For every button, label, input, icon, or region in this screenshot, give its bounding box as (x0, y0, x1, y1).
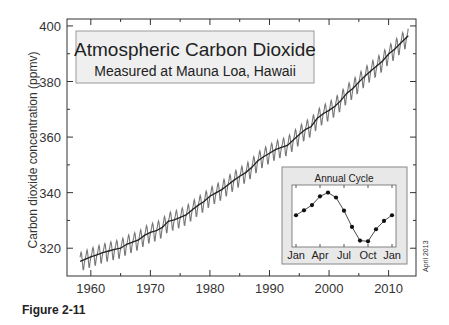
inset-tick-label: Jan (383, 249, 401, 261)
title-box: Atmospheric Carbon Dioxide Measured at M… (74, 31, 316, 83)
x-tick-label: 1970 (136, 281, 165, 296)
cycle-point (326, 190, 330, 194)
cycle-point (318, 194, 322, 198)
cycle-point (334, 195, 338, 199)
y-tick-label: 400 (39, 19, 61, 34)
cycle-point (390, 213, 394, 217)
date-note: April 2013 (422, 240, 430, 272)
cycle-point (366, 239, 370, 243)
cycle-point (310, 203, 314, 207)
cycle-point (350, 225, 354, 229)
y-tick-label: 380 (39, 75, 61, 90)
x-tick-label: 2010 (374, 281, 403, 296)
x-tick-label: 2000 (315, 281, 344, 296)
y-tick-label: 320 (39, 241, 61, 256)
cycle-point (358, 238, 362, 242)
cycle-point (342, 209, 346, 213)
y-tick-label: 360 (39, 130, 61, 145)
annual-cycle-inset: Annual Cycle JanAprJulOctJan (282, 167, 407, 264)
x-tick-label: 1990 (255, 281, 284, 296)
y-axis-label: Carbon dioxide concentration (ppmv) (26, 52, 40, 249)
inset-title: Annual Cycle (315, 173, 374, 184)
inset-tick-label: Apr (311, 249, 328, 261)
cycle-point (382, 219, 386, 223)
inset-tick-label: Jul (337, 249, 351, 261)
figure-caption: Figure 2-11 (22, 303, 85, 317)
x-tick-label: 1980 (195, 281, 224, 296)
inset-tick-label: Jan (287, 249, 305, 261)
cycle-point (294, 213, 298, 217)
chart-subtitle: Measured at Mauna Loa, Hawaii (94, 63, 296, 79)
cycle-point (374, 227, 378, 231)
co2-chart: Carbon dioxide concentration (ppmv) 1960… (0, 0, 449, 325)
cycle-point (302, 208, 306, 212)
x-tick-label: 1960 (76, 281, 105, 296)
inset-tick-label: Oct (359, 249, 376, 261)
y-tick-label: 340 (39, 186, 61, 201)
chart-title: Atmospheric Carbon Dioxide (74, 39, 316, 60)
